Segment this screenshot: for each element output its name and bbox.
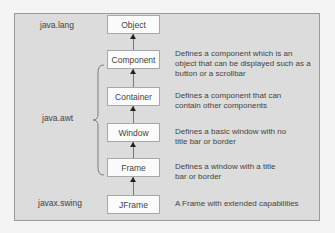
class-box-frame: Frame bbox=[107, 158, 160, 177]
arrow-up-icon bbox=[130, 142, 136, 147]
arrow-up-icon bbox=[130, 69, 136, 74]
package-label-java-awt: java.awt bbox=[42, 113, 73, 123]
package-label-java-lang: java.lang bbox=[40, 20, 74, 30]
package-label-javax-swing: javax.swing bbox=[38, 198, 82, 208]
arrow-up-icon bbox=[130, 106, 136, 111]
arrow-up-icon bbox=[130, 177, 136, 182]
class-box-window: Window bbox=[107, 123, 160, 142]
description-component: Defines a component which is an object t… bbox=[175, 49, 315, 79]
brace-java-awt bbox=[92, 64, 106, 176]
class-box-component: Component bbox=[107, 50, 160, 69]
class-box-object: Object bbox=[107, 15, 160, 34]
description-frame: Defines a window with a title bar or bor… bbox=[175, 162, 285, 182]
arrow-up-icon bbox=[130, 34, 136, 39]
description-window: Defines a basic window with no title bar… bbox=[175, 127, 300, 147]
class-box-container: Container bbox=[107, 87, 160, 106]
description-jframe: A Frame with extended capabilities bbox=[175, 199, 320, 209]
class-box-jframe: JFrame bbox=[107, 195, 160, 214]
description-container: Defines a component that can contain oth… bbox=[175, 91, 295, 111]
